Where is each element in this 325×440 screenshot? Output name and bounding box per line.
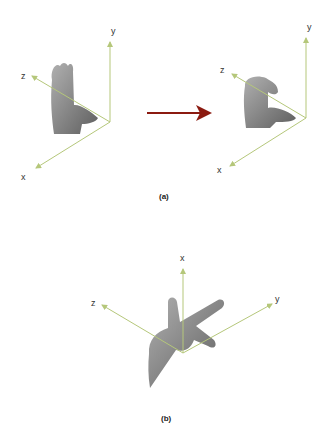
- z-label: z: [21, 71, 26, 81]
- panel-b-axes: x y z: [91, 253, 280, 388]
- y-label: y: [307, 22, 312, 32]
- panel-a-left-axes: y x z: [21, 26, 116, 182]
- y-label: y: [275, 294, 280, 304]
- x-label: x: [21, 172, 26, 182]
- caption-a: (a): [159, 192, 169, 201]
- hand-curled-icon: [244, 76, 296, 128]
- x-label: x: [180, 253, 185, 263]
- panel-a-right-axes: y x z: [217, 22, 312, 175]
- x-label: x: [217, 165, 222, 175]
- caption-b: (b): [161, 414, 172, 423]
- diagram-canvas: y x z y x z (a) x y z (b): [0, 0, 325, 440]
- y-label: y: [111, 26, 116, 36]
- z-label: z: [220, 65, 225, 75]
- hand-gesture-icon: [148, 298, 224, 389]
- hand-flat-icon: [51, 63, 98, 134]
- z-label: z: [91, 298, 96, 308]
